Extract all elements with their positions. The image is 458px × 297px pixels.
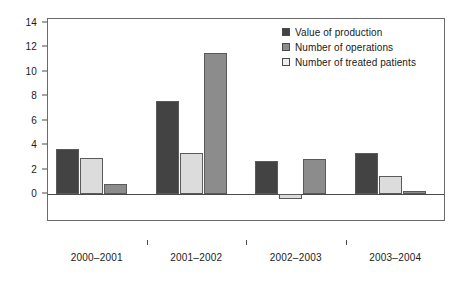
zero-baseline — [48, 194, 444, 195]
bar — [104, 184, 127, 194]
legend-item: Value of production — [282, 26, 416, 38]
bar — [180, 153, 203, 194]
x-axis: 2000–20012001–20022002–20032003–2004 — [47, 252, 445, 272]
bar — [403, 191, 426, 194]
bar — [303, 159, 326, 194]
x-axis-tick-mark — [147, 240, 148, 245]
legend-item: Number of operations — [282, 41, 416, 53]
y-axis-tick-label: 10 — [25, 65, 37, 76]
x-axis-category-label: 2003–2004 — [369, 252, 421, 263]
y-axis: 02468101214 — [0, 0, 47, 240]
bar — [204, 53, 227, 194]
bar — [355, 153, 378, 194]
y-axis-tick-label: 0 — [31, 188, 37, 199]
y-axis-tick-label: 4 — [31, 139, 37, 150]
x-axis-tick-mark — [346, 240, 347, 245]
bar — [255, 161, 278, 194]
chart-legend: Value of productionNumber of operationsN… — [282, 26, 416, 68]
bar — [156, 101, 179, 194]
bar — [379, 176, 402, 194]
y-axis-tick-label: 14 — [25, 17, 37, 28]
x-axis-category-label: 2001–2002 — [170, 252, 222, 263]
bar — [56, 149, 79, 194]
x-axis-tick-mark — [246, 240, 247, 245]
legend-swatch-icon — [282, 43, 290, 51]
y-axis-tick-label: 2 — [31, 163, 37, 174]
legend-label: Value of production — [295, 27, 382, 38]
x-axis-category-label: 2002–2003 — [270, 252, 322, 263]
legend-item: Number of treated patients — [282, 56, 416, 68]
bar — [80, 158, 103, 194]
x-axis-ticks — [47, 240, 445, 246]
x-axis-category-label: 2000–2001 — [71, 252, 123, 263]
y-axis-tick-label: 12 — [25, 41, 37, 52]
legend-label: Number of treated patients — [295, 57, 416, 68]
legend-swatch-icon — [282, 28, 290, 36]
bar — [279, 194, 302, 199]
y-axis-tick-label: 6 — [31, 114, 37, 125]
bar-chart: 02468101214 2000–20012001–20022002–20032… — [0, 0, 458, 297]
y-axis-tick-label: 8 — [31, 90, 37, 101]
legend-label: Number of operations — [295, 42, 393, 53]
legend-swatch-icon — [282, 58, 290, 66]
